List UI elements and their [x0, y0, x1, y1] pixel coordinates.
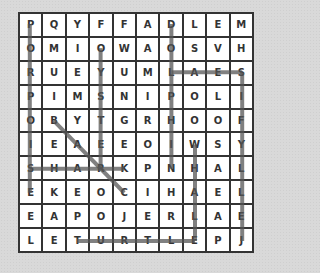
letter-cell[interactable]: H: [159, 109, 182, 133]
letter-cell[interactable]: Y: [66, 13, 89, 37]
letter-cell[interactable]: P: [19, 85, 42, 109]
letter-cell[interactable]: H: [159, 180, 182, 204]
letter-cell[interactable]: O: [183, 109, 206, 133]
letter-cell[interactable]: T: [89, 109, 112, 133]
letter-cell[interactable]: A: [136, 13, 159, 37]
letter-cell[interactable]: A: [136, 37, 159, 61]
letter-cell[interactable]: E: [66, 180, 89, 204]
letter-cell[interactable]: O: [89, 37, 112, 61]
letter-cell[interactable]: O: [159, 37, 182, 61]
letter-cell[interactable]: N: [159, 156, 182, 180]
letter-cell[interactable]: M: [66, 85, 89, 109]
letter-cell[interactable]: A: [183, 180, 206, 204]
letter-cell[interactable]: E: [42, 228, 65, 252]
letter-cell[interactable]: P: [19, 13, 42, 37]
letter-cell[interactable]: P: [159, 85, 182, 109]
letter-cell[interactable]: A: [183, 61, 206, 85]
letter-cell[interactable]: M: [136, 61, 159, 85]
letter-cell[interactable]: R: [113, 228, 136, 252]
letter-cell[interactable]: E: [89, 132, 112, 156]
letter-cell[interactable]: F: [113, 13, 136, 37]
letter-cell[interactable]: M: [42, 37, 65, 61]
letter-cell[interactable]: U: [113, 61, 136, 85]
letter-cell[interactable]: U: [89, 228, 112, 252]
letter-cell[interactable]: E: [206, 13, 229, 37]
letter-cell[interactable]: I: [42, 85, 65, 109]
letter-cell[interactable]: G: [113, 109, 136, 133]
letter-cell[interactable]: S: [183, 37, 206, 61]
letter-cell[interactable]: S: [19, 156, 42, 180]
letter-cell[interactable]: Q: [42, 13, 65, 37]
letter-cell[interactable]: E: [19, 204, 42, 228]
letter-cell[interactable]: A: [42, 204, 65, 228]
letter-cell[interactable]: B: [42, 109, 65, 133]
letter-cell[interactable]: P: [136, 156, 159, 180]
letter-cell[interactable]: E: [206, 61, 229, 85]
letter-cell[interactable]: A: [66, 156, 89, 180]
letter-cell[interactable]: W: [113, 37, 136, 61]
letter-cell[interactable]: R: [19, 61, 42, 85]
letter-cell[interactable]: I: [136, 180, 159, 204]
letter-cell[interactable]: L: [19, 228, 42, 252]
letter-cell[interactable]: T: [136, 228, 159, 252]
letter-cell[interactable]: L: [159, 61, 182, 85]
letter-cell[interactable]: W: [183, 132, 206, 156]
letter-cell[interactable]: O: [183, 85, 206, 109]
letter-cell[interactable]: E: [19, 180, 42, 204]
letter-cell[interactable]: M: [230, 13, 253, 37]
letter-cell[interactable]: I: [230, 85, 253, 109]
letter-cell[interactable]: E: [42, 132, 65, 156]
letter-cell[interactable]: O: [89, 204, 112, 228]
letter-cell[interactable]: A: [206, 204, 229, 228]
letter-cell[interactable]: D: [159, 13, 182, 37]
letter-cell[interactable]: F: [230, 109, 253, 133]
letter-cell[interactable]: I: [159, 132, 182, 156]
letter-cell[interactable]: F: [89, 13, 112, 37]
letter-cell[interactable]: O: [19, 37, 42, 61]
letter-cell[interactable]: L: [230, 156, 253, 180]
letter-cell[interactable]: O: [19, 109, 42, 133]
letter-cell[interactable]: C: [113, 180, 136, 204]
letter-cell[interactable]: N: [113, 85, 136, 109]
letter-cell[interactable]: U: [42, 61, 65, 85]
letter-cell[interactable]: T: [66, 228, 89, 252]
letter-cell[interactable]: R: [159, 204, 182, 228]
letter-cell[interactable]: I: [136, 85, 159, 109]
letter-cell[interactable]: Y: [89, 61, 112, 85]
letter-cell[interactable]: L: [206, 85, 229, 109]
letter-cell[interactable]: Y: [66, 109, 89, 133]
letter-cell[interactable]: H: [42, 156, 65, 180]
letter-cell[interactable]: S: [206, 132, 229, 156]
letter-cell[interactable]: R: [89, 156, 112, 180]
letter-cell[interactable]: Y: [230, 132, 253, 156]
letter-cell[interactable]: O: [206, 109, 229, 133]
letter-cell[interactable]: E: [136, 204, 159, 228]
letter-cell[interactable]: A: [206, 156, 229, 180]
letter-cell[interactable]: H: [183, 156, 206, 180]
letter-cell[interactable]: H: [230, 37, 253, 61]
letter-cell[interactable]: P: [66, 204, 89, 228]
letter-cell[interactable]: I: [19, 132, 42, 156]
letter-cell[interactable]: E: [113, 132, 136, 156]
letter-cell[interactable]: L: [183, 204, 206, 228]
letter-cell[interactable]: O: [89, 180, 112, 204]
letter-cell[interactable]: A: [66, 132, 89, 156]
letter-cell[interactable]: O: [136, 132, 159, 156]
letter-cell[interactable]: S: [230, 61, 253, 85]
letter-cell[interactable]: J: [230, 228, 253, 252]
letter-cell[interactable]: E: [206, 180, 229, 204]
letter-cell[interactable]: R: [136, 109, 159, 133]
letter-cell[interactable]: L: [230, 180, 253, 204]
letter-cell[interactable]: V: [206, 37, 229, 61]
letter-cell[interactable]: E: [66, 61, 89, 85]
letter-cell[interactable]: K: [42, 180, 65, 204]
letter-cell[interactable]: L: [183, 13, 206, 37]
letter-cell[interactable]: P: [206, 228, 229, 252]
letter-cell[interactable]: E: [183, 228, 206, 252]
letter-cell[interactable]: S: [89, 85, 112, 109]
letter-cell[interactable]: E: [230, 204, 253, 228]
letter-cell[interactable]: I: [66, 37, 89, 61]
letter-cell[interactable]: J: [113, 204, 136, 228]
letter-cell[interactable]: K: [113, 156, 136, 180]
letter-cell[interactable]: L: [159, 228, 182, 252]
